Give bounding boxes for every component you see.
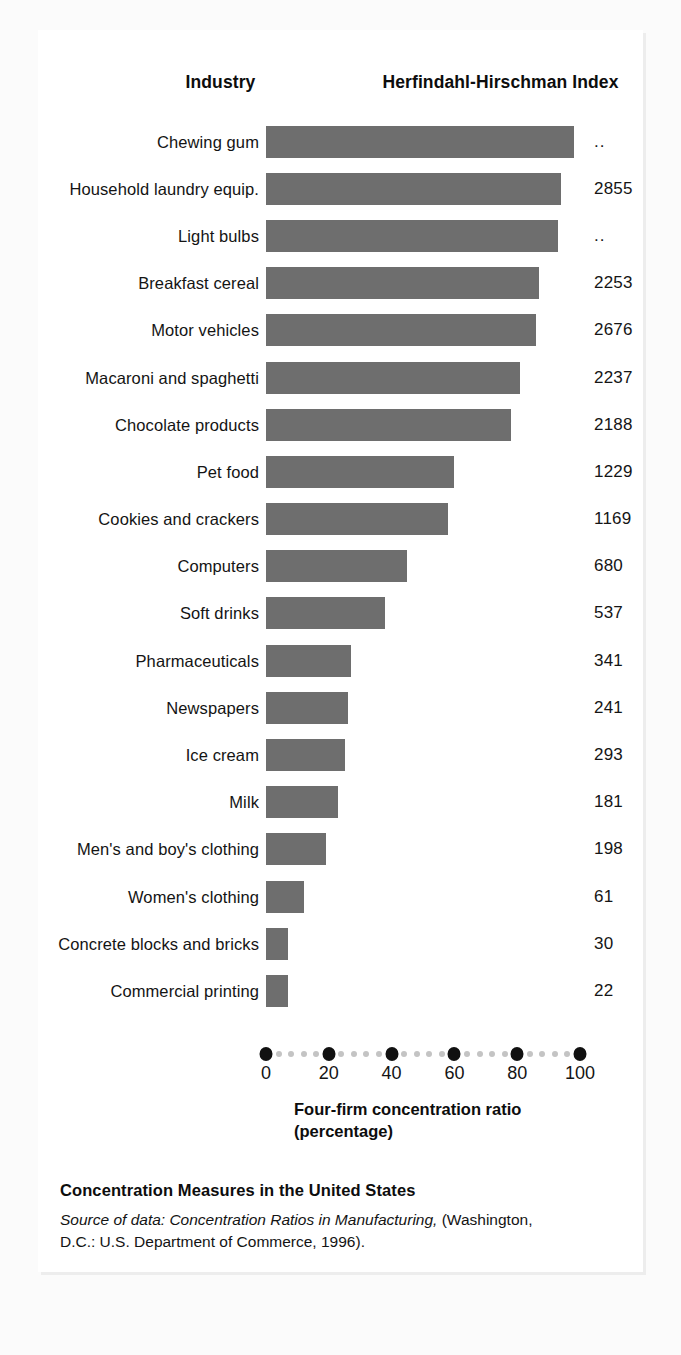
figure-page: Industry Herfindahl-Hirschman Index Chew…: [0, 0, 681, 1355]
bar-row: Pharmaceuticals341: [38, 637, 637, 684]
axis-tick-minor: [477, 1051, 483, 1057]
bar: [266, 692, 348, 724]
bar-row-value: 2855: [594, 179, 644, 199]
axis-tick-minor: [552, 1051, 558, 1057]
bar-row-value: 241: [594, 698, 644, 718]
bar-row: Motor vehicles2676: [38, 307, 637, 354]
x-axis-tick-dots: [266, 1046, 580, 1062]
bar-row: Cookies and crackers1169: [38, 496, 637, 543]
bar: [266, 362, 520, 394]
bar-row-value: 2188: [594, 415, 644, 435]
x-axis-title-line2: (percentage): [294, 1121, 624, 1143]
bar-row-label: Cookies and crackers: [98, 510, 259, 529]
axis-tick-major: [448, 1047, 461, 1061]
axis-tick-minor: [276, 1051, 282, 1057]
bar-row-label: Men's and boy's clothing: [77, 840, 259, 859]
axis-tick-minor: [376, 1051, 382, 1057]
axis-tick-major: [322, 1047, 335, 1061]
bar-track: [266, 220, 580, 252]
header-herfindahl-hirschman-index: Herfindahl-Hirschman Index: [368, 72, 633, 93]
bar-track: [266, 314, 580, 346]
bar: [266, 928, 288, 960]
bar-row-label: Milk: [229, 793, 259, 812]
bar-track: [266, 881, 580, 913]
column-headers: Industry Herfindahl-Hirschman Index: [38, 72, 637, 98]
bar: [266, 409, 511, 441]
bar: [266, 597, 385, 629]
bar: [266, 833, 326, 865]
axis-tick-minor: [338, 1051, 344, 1057]
bar-row-label: Ice cream: [186, 746, 259, 765]
bar-track: [266, 786, 580, 818]
bar-row-value: 1169: [594, 509, 644, 529]
bar-row: Ice cream293: [38, 731, 637, 778]
axis-tick-minor: [527, 1051, 533, 1057]
axis-tick-label: 40: [382, 1063, 402, 1084]
bar-track: [266, 739, 580, 771]
bar-row-value: 1229: [594, 462, 644, 482]
bar: [266, 503, 448, 535]
bar-row-value: ..: [594, 226, 644, 246]
x-axis-title-line1: Four-firm concentration ratio: [294, 1099, 624, 1121]
bar: [266, 550, 407, 582]
bar-row-value: 2237: [594, 368, 644, 388]
bar-row: Macaroni and spaghetti2237: [38, 354, 637, 401]
bar-track: [266, 975, 580, 1007]
figure-card: Industry Herfindahl-Hirschman Index Chew…: [38, 30, 643, 1272]
axis-tick-label: 0: [261, 1063, 271, 1084]
bar-row-label: Light bulbs: [178, 226, 259, 245]
bar-row: Soft drinks537: [38, 590, 637, 637]
figure-title: Concentration Measures in the United Sta…: [60, 1181, 625, 1200]
bar: [266, 645, 351, 677]
bar-row: Pet food1229: [38, 448, 637, 495]
bar-track: [266, 833, 580, 865]
bar-row-label: Soft drinks: [180, 604, 259, 623]
bar-track: [266, 267, 580, 299]
axis-tick-label: 20: [319, 1063, 339, 1084]
figure-card-inner: Industry Herfindahl-Hirschman Index Chew…: [38, 30, 637, 1266]
bar-row-value: 680: [594, 556, 644, 576]
axis-tick-minor: [439, 1051, 445, 1057]
bar-row-label: Pet food: [197, 462, 259, 481]
axis-tick-minor: [564, 1051, 570, 1057]
axis-tick-minor: [414, 1051, 420, 1057]
axis-tick-minor: [301, 1051, 307, 1057]
axis-tick-minor: [401, 1051, 407, 1057]
bar-row-value: 61: [594, 887, 644, 907]
source-publisher: (Washington,: [437, 1211, 532, 1228]
bar: [266, 220, 558, 252]
axis-tick-minor: [489, 1051, 495, 1057]
bar-row: Men's and boy's clothing198: [38, 826, 637, 873]
bar-row-label: Macaroni and spaghetti: [85, 368, 259, 387]
figure-source: Source of data: Concentration Ratios in …: [60, 1209, 625, 1254]
bar-row-value: ..: [594, 132, 644, 152]
bar-row-value: 2676: [594, 320, 644, 340]
bar-row: Household laundry equip.2855: [38, 165, 637, 212]
bar-rows: Chewing gum..Household laundry equip.285…: [38, 118, 637, 1015]
bar-row-label: Computers: [177, 557, 259, 576]
bar-track: [266, 550, 580, 582]
bar-track: [266, 597, 580, 629]
bar-row-value: 293: [594, 745, 644, 765]
axis-tick-minor: [351, 1051, 357, 1057]
bar-track: [266, 409, 580, 441]
bar-track: [266, 126, 580, 158]
axis-tick-label: 80: [507, 1063, 527, 1084]
axis-tick-minor: [313, 1051, 319, 1057]
axis-tick-minor: [502, 1051, 508, 1057]
bar-row-value: 2253: [594, 273, 644, 293]
bar-row-value: 537: [594, 603, 644, 623]
axis-tick-major: [511, 1047, 524, 1061]
bar-row: Light bulbs..: [38, 212, 637, 259]
axis-tick-major: [260, 1047, 273, 1061]
bar-track: [266, 503, 580, 535]
axis-tick-minor: [464, 1051, 470, 1057]
bar-row-label: Newspapers: [166, 698, 259, 717]
axis-tick-minor: [288, 1051, 294, 1057]
bar-row: Breakfast cereal2253: [38, 260, 637, 307]
axis-tick-minor: [539, 1051, 545, 1057]
axis-tick-major: [574, 1047, 587, 1061]
bar: [266, 173, 561, 205]
bar-track: [266, 362, 580, 394]
bar-track: [266, 645, 580, 677]
